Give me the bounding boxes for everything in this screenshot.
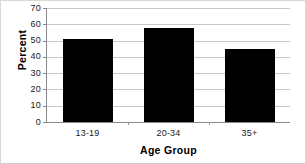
y-tick-label-wrap: 60 (0, 20, 41, 29)
bar (144, 28, 194, 122)
x-tick-label: 20-34 (128, 128, 209, 138)
gridline (47, 24, 290, 25)
y-tick-label-wrap: 70 (0, 4, 41, 13)
y-tick-label-wrap: 30 (0, 69, 41, 78)
y-tick-label-wrap: 20 (0, 85, 41, 94)
y-tick-label: 40 (3, 52, 41, 61)
y-tick-label: 10 (3, 101, 41, 110)
bar (225, 49, 275, 122)
gridline (47, 8, 290, 9)
y-tick-label: 30 (3, 69, 41, 78)
y-tick-label: 20 (3, 85, 41, 94)
x-axis-title: Age Group (47, 144, 290, 156)
bar-chart-figure: Percent 010203040506070 13-1920-3435+ Ag… (0, 0, 306, 164)
x-tick-label: 35+ (209, 128, 290, 138)
x-tick-label: 13-19 (47, 128, 128, 138)
y-tick-label-wrap: 10 (0, 101, 41, 110)
y-tick-label: 60 (3, 20, 41, 29)
y-tick-label: 70 (3, 4, 41, 13)
plot-area (47, 8, 290, 122)
y-tick-label: 0 (3, 118, 41, 127)
bar (63, 39, 113, 122)
y-tick-label-wrap: 0 (0, 118, 41, 127)
x-axis-baseline (47, 122, 290, 123)
x-tick-separator (128, 122, 129, 125)
y-tick-label-wrap: 50 (0, 36, 41, 45)
y-tick-label: 50 (3, 36, 41, 45)
x-tick-separator (209, 122, 210, 125)
y-tick-label-wrap: 40 (0, 52, 41, 61)
